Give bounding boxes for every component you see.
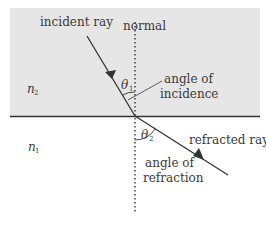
incident-ray-label: incident ray	[40, 15, 113, 29]
n1-subscript: 1	[35, 147, 39, 155]
angle-of-refraction-label-1: angle of	[145, 156, 196, 170]
angle-of-refraction-label-2: refraction	[143, 171, 204, 185]
normal-label: normal	[123, 19, 166, 33]
angle-of-incidence-label-1: angle of	[164, 72, 215, 86]
theta1-subscript: 1	[129, 85, 133, 93]
refracted-ray-arrowhead	[193, 148, 204, 160]
n2-subscript: 2	[34, 89, 38, 97]
theta1-symbol: θ	[121, 78, 129, 92]
refracted-ray-label: refracted ray	[189, 133, 266, 147]
refraction-diagram: incident ray normal angle of incidence r…	[0, 0, 266, 227]
theta2-symbol: θ	[141, 128, 149, 142]
theta2-subscript: 2	[149, 135, 153, 143]
angle-of-incidence-label-2: incidence	[160, 87, 218, 101]
